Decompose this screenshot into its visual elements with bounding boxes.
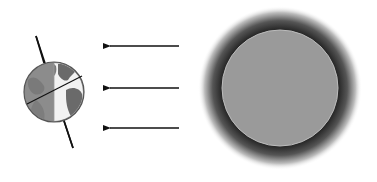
sun-disk [222, 30, 338, 146]
sun [198, 6, 362, 170]
earth-sun-diagram [0, 0, 377, 182]
sunlight-arrows [110, 46, 179, 128]
earth [24, 36, 86, 148]
